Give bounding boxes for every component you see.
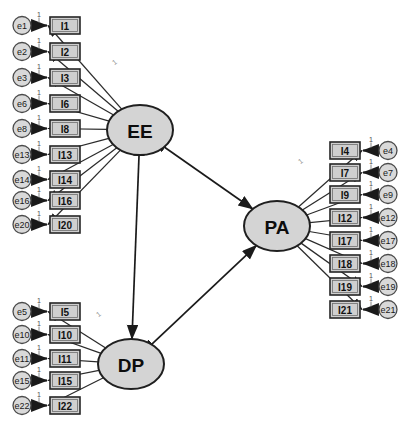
fixed-loading-markers: 111 bbox=[95, 58, 304, 318]
indicator-label-I16: I16 bbox=[58, 196, 72, 207]
fixed-loading-label-e5: 1 bbox=[37, 297, 41, 304]
fixed-loading-label-e9: 1 bbox=[369, 180, 373, 187]
error-label-e12: e12 bbox=[380, 213, 395, 223]
error-label-e13: e13 bbox=[14, 150, 29, 160]
fixed-loading-label-e15: 1 bbox=[37, 366, 41, 373]
indicator-label-I8: I8 bbox=[61, 124, 70, 135]
indicator-label-I15: I15 bbox=[58, 376, 72, 387]
indicator-label-I17: I17 bbox=[338, 236, 352, 247]
error-label-e8: e8 bbox=[17, 124, 27, 134]
factor-label-PA: PA bbox=[265, 217, 290, 238]
error-label-e4: e4 bbox=[383, 146, 393, 156]
fixed-loading-label-e8: 1 bbox=[37, 114, 41, 121]
indicator-label-I2: I2 bbox=[61, 47, 70, 58]
indicator-nodes: e1I1e2I2e3I3e6I6e8I8e13I13e14I14e16I16e2… bbox=[13, 17, 397, 415]
error-label-e18: e18 bbox=[380, 259, 395, 269]
error-label-e15: e15 bbox=[14, 376, 29, 386]
error-label-e6: e6 bbox=[17, 99, 27, 109]
correlation-path-DP-PA bbox=[152, 246, 257, 345]
diagram-canvas: 1111111111111111111111 e1I1e2I2e3I3e6I6e… bbox=[0, 0, 411, 423]
error-label-e3: e3 bbox=[17, 73, 27, 83]
factor-label-EE: EE bbox=[127, 121, 152, 142]
indicator-label-I5: I5 bbox=[61, 307, 70, 318]
fixed-loading-label-e11: 1 bbox=[37, 344, 41, 351]
error-label-e17: e17 bbox=[380, 236, 395, 246]
factor-label-DP: DP bbox=[118, 355, 145, 376]
fixed-loading-label-e20: 1 bbox=[37, 210, 41, 217]
indicator-label-I9: I9 bbox=[341, 190, 350, 201]
indicator-label-I13: I13 bbox=[58, 150, 72, 161]
error-label-e14: e14 bbox=[14, 175, 29, 185]
indicator-label-I22: I22 bbox=[58, 401, 72, 412]
fixed-loading-label-e18: 1 bbox=[369, 249, 373, 256]
error-label-e1: e1 bbox=[17, 21, 27, 31]
fixed-loading-label-e21: 1 bbox=[369, 295, 373, 302]
error-label-e7: e7 bbox=[383, 168, 393, 178]
correlation-path-EE-DP bbox=[132, 155, 139, 339]
sem-path-diagram: 1111111111111111111111 e1I1e2I2e3I3e6I6e… bbox=[0, 0, 411, 423]
fixed-loading-label-e22: 1 bbox=[37, 391, 41, 398]
fixed-loading-marker-EE: 1 bbox=[111, 58, 118, 66]
fixed-loading-label-e7: 1 bbox=[369, 158, 373, 165]
fixed-loading-label-e14: 1 bbox=[37, 165, 41, 172]
latent-factor-nodes: EEPADP bbox=[98, 105, 310, 389]
indicator-label-I14: I14 bbox=[58, 175, 72, 186]
indicator-label-I1: I1 bbox=[61, 21, 70, 32]
fixed-loading-label-e12: 1 bbox=[369, 203, 373, 210]
fixed-loading-label-e17: 1 bbox=[369, 226, 373, 233]
indicator-label-I19: I19 bbox=[338, 282, 352, 293]
indicator-label-I10: I10 bbox=[58, 330, 72, 341]
error-label-e10: e10 bbox=[14, 330, 29, 340]
indicator-label-I11: I11 bbox=[58, 354, 72, 365]
error-label-e21: e21 bbox=[380, 305, 395, 315]
error-label-e16: e16 bbox=[14, 196, 29, 206]
indicator-label-I18: I18 bbox=[338, 259, 352, 270]
fixed-loading-label-e3: 1 bbox=[37, 63, 41, 70]
error-label-e9: e9 bbox=[383, 190, 393, 200]
indicator-label-I6: I6 bbox=[61, 99, 70, 110]
fixed-loading-label-e19: 1 bbox=[369, 272, 373, 279]
fixed-loading-label-e2: 1 bbox=[37, 37, 41, 44]
indicator-label-I20: I20 bbox=[58, 220, 72, 231]
factor-loading-paths bbox=[48, 26, 362, 406]
fixed-loading-marker-DP: 1 bbox=[95, 310, 102, 318]
indicator-label-I21: I21 bbox=[338, 305, 352, 316]
fixed-loading-marker-PA: 1 bbox=[297, 157, 304, 165]
indicator-label-I12: I12 bbox=[338, 213, 352, 224]
indicator-label-I3: I3 bbox=[61, 73, 70, 84]
fixed-loading-label-e6: 1 bbox=[37, 89, 41, 96]
error-label-e22: e22 bbox=[14, 401, 29, 411]
indicator-label-I4: I4 bbox=[341, 146, 350, 157]
error-label-e2: e2 bbox=[17, 47, 27, 57]
indicator-label-I7: I7 bbox=[341, 168, 350, 179]
error-label-e11: e11 bbox=[15, 354, 29, 364]
error-label-e5: e5 bbox=[17, 307, 27, 317]
error-label-e19: e19 bbox=[380, 282, 395, 292]
fixed-loading-label-e13: 1 bbox=[37, 140, 41, 147]
factor-correlation-paths bbox=[132, 147, 256, 345]
fixed-loading-label-e16: 1 bbox=[37, 186, 41, 193]
fixed-loading-label-e1: 1 bbox=[37, 11, 41, 18]
fixed-loading-label-e4: 1 bbox=[369, 136, 373, 143]
error-label-e20: e20 bbox=[14, 220, 29, 230]
fixed-loading-label-e10: 1 bbox=[37, 320, 41, 327]
correlation-path-EE-PA bbox=[164, 147, 253, 209]
